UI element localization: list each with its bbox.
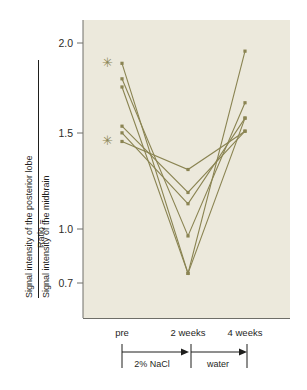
data-point-2-weeks xyxy=(186,272,189,275)
data-point-4-weeks xyxy=(243,117,246,120)
y-tick-label-2: 1.0 xyxy=(58,223,73,235)
data-point-4-weeks xyxy=(243,130,246,133)
data-point-2-weeks xyxy=(186,202,189,205)
chart-figure: 2.0 1.5 1.0 0.7 Ratio = Signal intensity… xyxy=(0,0,307,390)
data-point-2-weeks xyxy=(186,191,189,194)
data-point-pre xyxy=(120,140,123,143)
data-point-4-weeks xyxy=(243,50,246,53)
phase-label-water: water xyxy=(206,359,229,369)
data-point-pre xyxy=(120,85,123,88)
data-point-pre xyxy=(120,77,123,80)
asterisk-icon-1: ✳ xyxy=(102,55,113,70)
y-axis-title-numerator: Signal intensity of the posterior lobe xyxy=(24,155,34,298)
data-point-pre xyxy=(120,125,123,128)
asterisk-icon-2: ✳ xyxy=(102,133,113,148)
y-tick-label-0: 2.0 xyxy=(58,37,73,49)
data-point-4-weeks xyxy=(243,101,246,104)
y-axis-title-denominator: Signal intensity of the midbrain xyxy=(41,175,51,298)
y-tick-label-1: 1.5 xyxy=(58,127,73,139)
data-point-2-weeks xyxy=(186,234,189,237)
x-category-label-2-weeks: 2 weeks xyxy=(171,327,206,338)
y-tick-label-3: 0.7 xyxy=(58,277,73,289)
data-point-2-weeks xyxy=(186,168,189,171)
x-category-label-pre: pre xyxy=(115,327,129,338)
data-point-pre xyxy=(120,131,123,134)
data-point-pre xyxy=(120,62,123,65)
phase-label-nacl: 2% NaCl xyxy=(134,359,170,369)
x-category-label-4-weeks: 4 weeks xyxy=(228,327,263,338)
